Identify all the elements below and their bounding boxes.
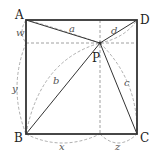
point-p <box>99 42 102 45</box>
label-d: D <box>140 13 150 27</box>
label-seg-b: b <box>53 75 59 86</box>
segment-pa <box>26 20 100 43</box>
label-seg-c: c <box>124 77 130 88</box>
label-y: y <box>11 83 18 94</box>
label-seg-a: a <box>69 23 75 34</box>
label-seg-d: d <box>111 25 117 36</box>
label-c: C <box>140 131 149 145</box>
segment-pb <box>26 43 100 134</box>
geometry-diagram: A D B C P a d b c w y x z <box>0 0 157 157</box>
label-p: P <box>92 51 100 65</box>
label-b: B <box>14 131 23 145</box>
arc-y <box>17 43 26 134</box>
label-x: x <box>59 141 65 152</box>
segment-pd <box>100 20 137 43</box>
label-z: z <box>114 141 121 152</box>
label-a: A <box>14 8 24 22</box>
label-w: w <box>16 27 25 38</box>
segment-pc <box>100 43 137 134</box>
